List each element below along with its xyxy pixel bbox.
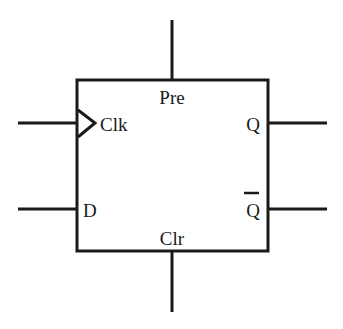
q-label: Q	[246, 114, 260, 135]
d-flip-flop-diagram: Pre Clk D Q Q Clr	[0, 0, 343, 329]
data-label: D	[83, 200, 97, 221]
preset-label: Pre	[159, 87, 184, 108]
q-bar-label: Q	[246, 200, 260, 221]
clock-edge-triangle-icon	[78, 110, 95, 137]
clock-label: Clk	[100, 114, 128, 135]
clear-label: Clr	[160, 228, 185, 249]
